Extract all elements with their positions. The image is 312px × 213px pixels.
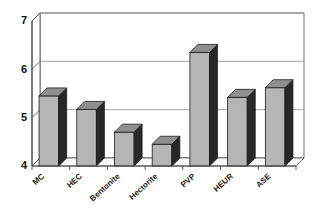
x-tick-label: HEC — [65, 172, 84, 190]
bar — [228, 89, 256, 166]
bar-side-face — [247, 89, 255, 166]
bar-side-face — [59, 88, 67, 166]
bar-front-face — [114, 132, 134, 166]
x-tick-labels: MCHECBentoniteHectoritePVPHEURASE — [31, 171, 273, 203]
bar — [77, 101, 105, 166]
bar — [114, 124, 142, 166]
y-tick-label: 7 — [21, 14, 27, 26]
y-tick-label: 6 — [21, 63, 27, 75]
bar-front-face — [190, 52, 210, 166]
bar — [190, 44, 218, 166]
bar-chart: 4567MCHECBentoniteHectoritePVPHEURASE — [0, 0, 312, 213]
y-tick-label: 5 — [21, 111, 27, 123]
x-tick-label: ASE — [254, 171, 273, 189]
bar-side-face — [96, 101, 104, 166]
x-tick-label: HEUR — [212, 172, 235, 194]
y-tick-labels: 4567 — [21, 14, 28, 171]
bar-front-face — [265, 88, 285, 166]
x-tick-label: Hectorite — [128, 171, 160, 201]
bar — [152, 136, 180, 166]
bar — [265, 80, 293, 166]
x-tick-label: Bentonite — [88, 171, 122, 203]
bar-front-face — [228, 97, 248, 166]
chart-canvas: 4567MCHECBentoniteHectoritePVPHEURASE — [0, 0, 312, 213]
bar-side-face — [210, 44, 218, 166]
bar-side-face — [285, 80, 293, 166]
bar-front-face — [77, 109, 97, 166]
bar-front-face — [152, 144, 172, 166]
y-tick-label: 4 — [21, 159, 28, 171]
x-tick-label: PVP — [179, 171, 197, 189]
x-tick-label: MC — [31, 172, 46, 187]
bar — [39, 88, 67, 166]
bar-front-face — [39, 96, 59, 166]
x-ticks — [32, 166, 296, 170]
